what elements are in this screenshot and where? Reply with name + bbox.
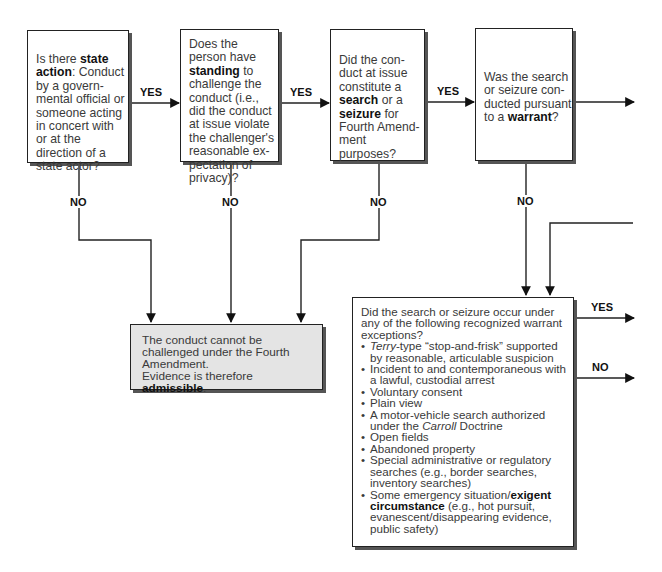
node-warrant-exceptions: Did the search or seizure occur under an… xyxy=(352,297,574,547)
node-search-seizure: Did the con-duct at issue constitute a s… xyxy=(330,29,425,161)
edge-label-no: NO xyxy=(517,195,534,207)
node-standing: Does the person have standing to challen… xyxy=(180,29,279,162)
node-warrant: Was the search or seizure con-ducted pur… xyxy=(475,28,573,161)
exception-arrest: Incident to and contemporaneous with a l… xyxy=(361,363,571,386)
node-admissible: The conduct cannot be challenged under t… xyxy=(130,324,323,390)
node-state-action: Is there state action: Conduct by a gove… xyxy=(27,30,129,163)
edge-label-yes: YES xyxy=(290,86,312,98)
edge-label-no: NO xyxy=(592,361,609,373)
exceptions-list: Terry-type “stop-and-frisk” supported by… xyxy=(361,340,571,534)
exception-special: Special administrative or regulatory sea… xyxy=(361,454,571,488)
exception-carroll: A motor-vehicle search authorized under … xyxy=(361,409,571,432)
exception-exigent: Some emergency situation/exigent circums… xyxy=(361,489,571,535)
exceptions-question: Did the search or seizure occur under an… xyxy=(361,306,571,340)
exception-terry: Terry-type “stop-and-frisk” supported by… xyxy=(361,340,571,363)
edge-label-no: NO xyxy=(370,196,387,208)
edge-label-yes: YES xyxy=(140,86,162,98)
edge-label-yes: YES xyxy=(591,301,613,313)
edge-label-no: NO xyxy=(70,196,87,208)
edge-label-no: NO xyxy=(222,196,239,208)
edge-label-yes: YES xyxy=(437,85,459,97)
